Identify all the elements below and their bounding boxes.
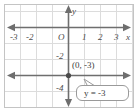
x-tick-label-neg2: -2 xyxy=(26,33,34,42)
coordinate-plane xyxy=(0,0,138,112)
y-tick-label-neg2: -2 xyxy=(56,52,64,61)
x-axis-label: x xyxy=(126,33,130,42)
graph-figure: -3 -2 1 2 3 -2 -4 O x y (0, -3) y = -3 xyxy=(0,0,138,112)
point-coordinate-label: (0, -3) xyxy=(72,61,95,70)
x-tick-label-1: 1 xyxy=(82,33,87,42)
y-axis-label: y xyxy=(72,7,76,16)
x-tick-label-3: 3 xyxy=(114,33,119,42)
x-tick-label-2: 2 xyxy=(98,33,103,42)
y-tick-label-neg4: -4 xyxy=(56,84,64,93)
data-point-0-negative-3 xyxy=(66,73,71,78)
equation-callout-label: y = -3 xyxy=(84,89,106,98)
x-tick-label-neg3: -3 xyxy=(10,33,18,42)
origin-label: O xyxy=(58,33,65,42)
